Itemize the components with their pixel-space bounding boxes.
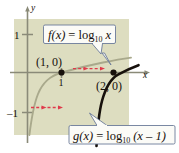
y-axis-arrowhead: [25, 6, 30, 12]
point-2-0: [110, 69, 116, 75]
x-axis-label: x: [142, 70, 148, 80]
f-callout-log: log: [78, 28, 95, 42]
g-callout-eq: =: [96, 129, 103, 143]
y-tick-label-neg1: –1: [6, 107, 18, 119]
f-callout-eq: =: [68, 28, 75, 42]
g-callout-base: 10: [122, 136, 130, 145]
point-1-0: [58, 69, 64, 75]
g-callout-log: log: [106, 129, 123, 143]
y-axis-label: y: [30, 3, 36, 13]
g-callout-fn: g(x)=log10(x – 1): [73, 129, 166, 145]
logarithm-graph-figure: f(x)=log10x g(x)=log10(x – 1) y x 1 –1 1…: [0, 0, 179, 153]
figure-canvas: f(x)=log10x g(x)=log10(x – 1) y x 1 –1 1…: [0, 0, 179, 153]
y-tick-label-1: 1: [14, 29, 20, 41]
f-callout-arg: x: [104, 28, 111, 42]
point-label-2-0: (2, 0): [96, 79, 122, 93]
f-callout-base: 10: [94, 35, 102, 44]
g-callout-arg: (x – 1): [133, 129, 166, 143]
f-callout-fn-var: (x): [51, 28, 65, 42]
point-label-1-0: (1, 0): [36, 55, 62, 69]
x-tick-label-1: 1: [59, 77, 64, 88]
g-callout-fn-var: (x): [79, 129, 93, 143]
